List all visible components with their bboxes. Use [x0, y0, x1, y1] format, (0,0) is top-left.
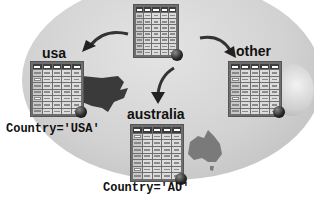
table-cell: [260, 109, 269, 114]
table-cell: [251, 109, 260, 114]
table-cell: [169, 25, 176, 30]
table-cell: [270, 77, 279, 82]
table-cell: [133, 173, 142, 179]
partition-condition-australia: Country='AU': [103, 181, 189, 195]
partition-label-other: other: [236, 43, 271, 59]
table-cell: [162, 140, 171, 146]
table-cell: [241, 83, 250, 88]
table-cell: [144, 25, 151, 30]
table-cell: [53, 70, 62, 75]
table-cell: [136, 38, 143, 43]
table-cell: [162, 147, 171, 153]
table-cell: [169, 19, 176, 24]
table-cell: [152, 25, 159, 30]
table-cell: [43, 109, 52, 114]
table-cell: [260, 64, 269, 69]
table-cell: [133, 160, 142, 166]
table-cell: [133, 154, 142, 160]
table-cell: [153, 134, 162, 140]
table-cell: [144, 44, 151, 49]
table-cell: [251, 77, 260, 82]
table-cell: [43, 77, 52, 82]
table-cell: [152, 13, 159, 18]
table-cell: [241, 109, 250, 114]
table-cell: [144, 50, 151, 55]
table-cell: [162, 173, 171, 179]
table-cell: [53, 96, 62, 101]
table-cell: [43, 102, 52, 107]
table-cell: [33, 70, 42, 75]
arrow-to-australia-icon: [148, 66, 178, 106]
table-cell: [241, 90, 250, 95]
table-cell: [53, 102, 62, 107]
table-cell: [62, 70, 71, 75]
table-cell: [133, 167, 142, 173]
table-cell: [270, 70, 279, 75]
table-cell: [72, 83, 81, 88]
table-cell: [260, 77, 269, 82]
table-cell: [33, 90, 42, 95]
table-cell: [161, 13, 168, 18]
table-cell: [161, 38, 168, 43]
partition-label-usa: usa: [42, 45, 66, 61]
table-cell: [143, 154, 152, 160]
table-cell: [162, 167, 171, 173]
table-cell: [33, 109, 42, 114]
table-cell: [161, 19, 168, 24]
table-cell: [53, 90, 62, 95]
table-cell: [62, 109, 71, 114]
table-cell: [172, 154, 181, 160]
table-cell: [62, 102, 71, 107]
table-cell: [133, 127, 142, 133]
table-cell: [143, 134, 152, 140]
table-cell: [43, 70, 52, 75]
table-cell: [251, 70, 260, 75]
table-cell: [136, 25, 143, 30]
table-cell: [153, 147, 162, 153]
table-cell: [169, 38, 176, 43]
table-cell: [33, 77, 42, 82]
table-cell: [241, 96, 250, 101]
table-cell: [169, 7, 176, 12]
table-cell: [270, 64, 279, 69]
table-cell: [144, 19, 151, 24]
table-cell: [33, 102, 42, 107]
table-cell: [143, 173, 152, 179]
table-cell: [136, 19, 143, 24]
table-cell: [162, 134, 171, 140]
table-cell: [260, 70, 269, 75]
table-cell: [43, 64, 52, 69]
table-cell: [172, 160, 181, 166]
table-cell: [153, 154, 162, 160]
table-cell: [53, 64, 62, 69]
table-cell: [72, 70, 81, 75]
table-cell: [161, 44, 168, 49]
table-cell: [251, 83, 260, 88]
table-cell: [143, 160, 152, 166]
table-cell: [152, 7, 159, 12]
table-cell: [172, 167, 181, 173]
table-cell: [241, 70, 250, 75]
table-cell: [231, 90, 240, 95]
table-cell: [133, 134, 142, 140]
table-cell: [43, 96, 52, 101]
table-cell: [136, 13, 143, 18]
table-cell: [72, 64, 81, 69]
table-cell: [161, 50, 168, 55]
table-cell: [136, 32, 143, 37]
table-cell: [153, 173, 162, 179]
table-cell: [231, 96, 240, 101]
table-cell: [152, 38, 159, 43]
table-cell: [231, 102, 240, 107]
table-cell: [136, 50, 143, 55]
table-cell: [153, 127, 162, 133]
table-cell: [136, 7, 143, 12]
table-cell: [241, 77, 250, 82]
usa-table-sphere-icon: [75, 106, 87, 118]
table-cell: [260, 83, 269, 88]
table-cell: [33, 64, 42, 69]
table-cell: [72, 77, 81, 82]
table-cell: [144, 13, 151, 18]
table-cell: [270, 90, 279, 95]
table-cell: [251, 102, 260, 107]
